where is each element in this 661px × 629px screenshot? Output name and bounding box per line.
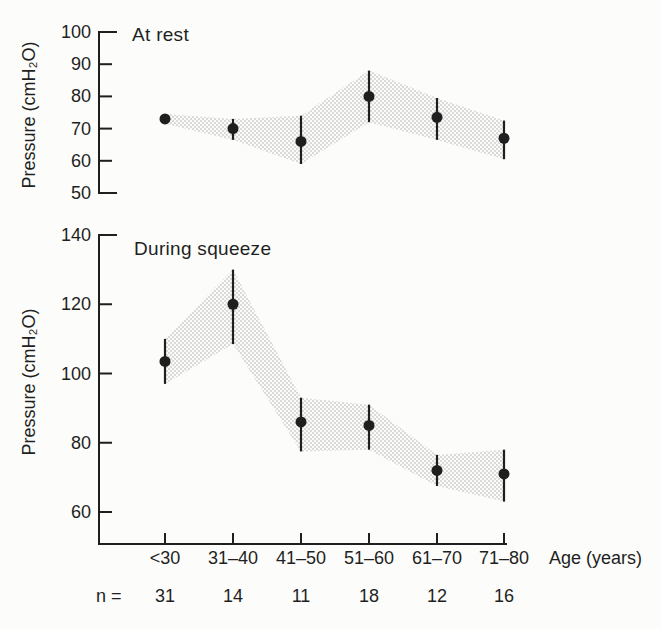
y-tick-label: 50	[71, 183, 91, 203]
y-tick-label: 100	[61, 364, 91, 384]
panel-title-at-rest: At rest	[132, 24, 189, 46]
y-tick-label: 100	[61, 22, 91, 42]
data-point	[364, 91, 375, 102]
data-point	[160, 356, 171, 367]
data-point	[432, 465, 443, 476]
x-tick-label: 31–40	[208, 548, 258, 568]
data-point	[296, 416, 307, 427]
y-axis-label-bottom: Pressure (cmH₂O)	[18, 262, 40, 502]
data-point	[296, 136, 307, 147]
y-tick-label: 90	[71, 54, 91, 74]
data-point	[364, 420, 375, 431]
y-tick-label: 70	[71, 119, 91, 139]
x-tick-label: 51–60	[344, 548, 394, 568]
data-point	[432, 112, 443, 123]
x-tick-label: 61–70	[412, 548, 462, 568]
y-tick-label: 140	[61, 225, 91, 245]
panel-title-during-squeeze: During squeeze	[134, 238, 271, 260]
confidence-band	[165, 270, 504, 502]
n-value: 18	[359, 586, 379, 606]
data-point	[499, 133, 510, 144]
sample-size-prefix: n =	[96, 586, 122, 606]
pressure-by-age-figure: 10090807060501401201008060<303131–401441…	[0, 0, 661, 629]
x-axis-label: Age (years)	[549, 548, 642, 568]
y-tick-label: 80	[71, 433, 91, 453]
x-tick-label: 41–50	[276, 548, 326, 568]
x-tick-label: <30	[150, 548, 181, 568]
y-tick-label: 60	[71, 151, 91, 171]
x-tick-label: 71–80	[479, 548, 529, 568]
x-axis: <303131–401441–501151–601861–701271–8016	[99, 533, 529, 606]
n-value: 11	[292, 586, 311, 606]
chart-canvas: 10090807060501401201008060<303131–401441…	[0, 0, 661, 629]
y-tick-label: 120	[61, 294, 91, 314]
n-value: 12	[427, 586, 447, 606]
data-point	[228, 299, 239, 310]
panel-during-squeeze: 1401201008060	[61, 225, 510, 544]
y-axis-label-top: Pressure (cmH₂O)	[18, 0, 40, 235]
n-value: 14	[223, 586, 243, 606]
confidence-band	[165, 71, 504, 164]
data-point	[228, 123, 239, 134]
y-tick-label: 60	[71, 502, 91, 522]
n-value: 31	[155, 586, 175, 606]
panel-at-rest: 1009080706050	[61, 22, 510, 203]
n-value: 16	[494, 586, 514, 606]
data-point	[160, 113, 171, 124]
y-tick-label: 80	[71, 86, 91, 106]
data-point	[499, 468, 510, 479]
